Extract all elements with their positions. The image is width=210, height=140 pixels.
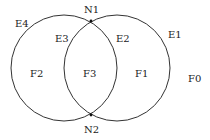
node-n1-dot <box>90 20 93 23</box>
node-label-n2: N2 <box>84 124 99 135</box>
edge-label-e4: E4 <box>15 18 29 29</box>
edge-label-e1: E1 <box>168 29 182 40</box>
node-n2-dot <box>90 114 93 117</box>
face-label-f1: F1 <box>135 68 148 79</box>
node-label-n1: N1 <box>84 4 99 15</box>
face-label-f3: F3 <box>83 68 96 79</box>
edge-label-e2: E2 <box>116 33 130 44</box>
edge-label-e3: E3 <box>55 33 69 44</box>
face-label-f2: F2 <box>30 68 43 79</box>
venn-graph-diagram: N1 N2 E4 E3 E2 E1 F2 F3 F1 F0 <box>0 0 210 140</box>
face-label-f0: F0 <box>188 73 201 84</box>
